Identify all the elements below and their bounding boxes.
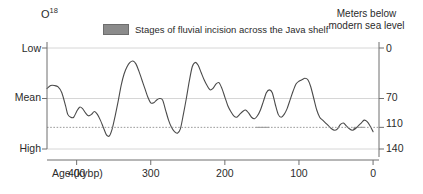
sea-level-chart: O18 Meters below modern sea level Stages…: [0, 0, 423, 194]
axis-lines: [47, 42, 379, 160]
gridlines: [47, 48, 379, 149]
plot-area: [0, 0, 423, 194]
tick-marks: [42, 48, 384, 165]
